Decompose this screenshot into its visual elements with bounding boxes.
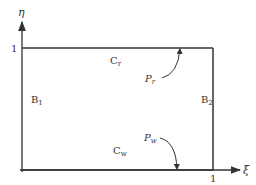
cr-label: Cr (110, 55, 122, 68)
pr-label: Pr (144, 73, 156, 86)
eta-label: η (18, 6, 25, 19)
pw-label: Pw (143, 132, 157, 145)
b1-label: B1 (31, 94, 43, 107)
domain-diagram: η 1 ξ 1 Cr Cw B1 B2 Pr Pw (0, 0, 256, 185)
cw-label: Cw (113, 145, 127, 158)
b2-label: B2 (201, 94, 213, 107)
pr-arrow (162, 49, 180, 78)
xi-label: ξ (243, 164, 250, 177)
pw-arrow (160, 138, 177, 169)
y-tick-1: 1 (11, 43, 17, 54)
x-tick-1: 1 (210, 173, 216, 184)
